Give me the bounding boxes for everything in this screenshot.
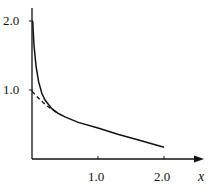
y-tick-label-1: 1.0 (3, 83, 19, 96)
x-axis-arrow-icon (194, 156, 204, 163)
solid-curve (33, 21, 164, 147)
y-tick-label-2: 2.0 (3, 14, 19, 27)
chart-canvas (0, 0, 216, 192)
x-tick-label-2: 2.0 (154, 170, 170, 183)
x-tick-label-1: 1.0 (88, 170, 104, 183)
x-axis-label: x (198, 169, 204, 185)
